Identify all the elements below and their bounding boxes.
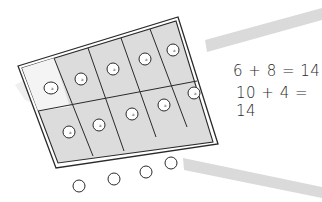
equation-2: 10 + 4 = 14 — [236, 84, 322, 120]
counter — [165, 157, 177, 169]
equation-1: 6 + 8 = 14 — [233, 62, 320, 80]
counter — [108, 173, 120, 185]
counter — [140, 166, 152, 178]
gray-band-bottom — [183, 158, 322, 198]
counter — [73, 180, 85, 192]
gray-band-top — [205, 8, 322, 52]
ten-frame-illustration: aaa aaa aaa a 6 + 8 = 14 10 + 4 = 14 — [0, 0, 322, 202]
